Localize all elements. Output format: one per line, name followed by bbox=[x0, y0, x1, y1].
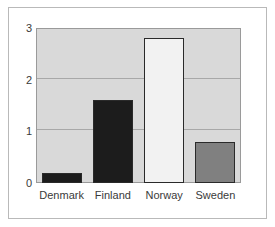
y-axis: 0123 bbox=[8, 28, 32, 183]
y-tick-label: 0 bbox=[8, 178, 32, 189]
y-tick-label: 2 bbox=[8, 74, 32, 85]
bar-denmark[interactable] bbox=[42, 173, 82, 183]
x-tick-label-norway: Norway bbox=[145, 188, 182, 202]
x-tick-label-sweden: Sweden bbox=[195, 188, 235, 202]
bar-slot bbox=[139, 28, 190, 183]
bar-sweden[interactable] bbox=[195, 142, 235, 183]
x-tick-label-denmark: Denmark bbox=[39, 188, 84, 202]
x-axis: DenmarkFinlandNorwaySweden bbox=[36, 188, 241, 206]
bar-slot bbox=[36, 28, 87, 183]
bars-layer bbox=[36, 28, 241, 183]
bar-chart-figure: 0123 DenmarkFinlandNorwaySweden bbox=[0, 0, 275, 227]
y-tick-label: 1 bbox=[8, 126, 32, 137]
bar-slot bbox=[87, 28, 138, 183]
bar-slot bbox=[190, 28, 241, 183]
y-tick-label: 3 bbox=[8, 23, 32, 34]
bar-norway[interactable] bbox=[144, 38, 184, 183]
bar-finland[interactable] bbox=[93, 100, 133, 183]
x-tick-label-finland: Finland bbox=[95, 188, 131, 202]
